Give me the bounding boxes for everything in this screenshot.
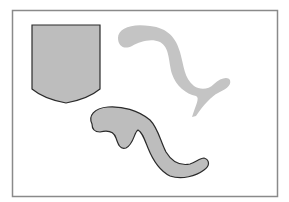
shield-shape [32,25,100,103]
figure-svg [0,0,289,202]
figure-canvas [0,0,289,202]
